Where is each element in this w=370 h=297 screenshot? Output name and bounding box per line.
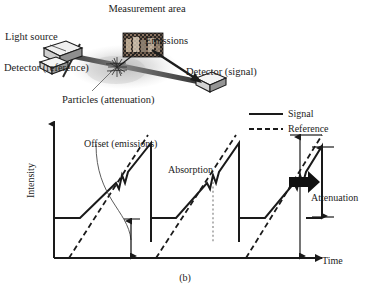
measurement-area-label: Measurement area	[104, 3, 190, 15]
legend-reference-label: Reference	[288, 123, 329, 134]
y-axis-label: Intensity	[25, 148, 36, 214]
figure-caption: (b)	[0, 272, 370, 283]
schematic-diagram	[0, 0, 370, 112]
particles-label: Particles (attenuation)	[62, 94, 154, 106]
chart-legend	[249, 114, 283, 129]
detector-reference-label: Detector (reference)	[4, 62, 74, 74]
x-axis-label: Time	[322, 255, 343, 266]
attenuation-annotation-label: Attenuation	[311, 192, 358, 203]
light-source-label: Light source	[5, 31, 58, 43]
offset-leader-line	[96, 144, 131, 240]
figure-panel-b: Measurement area Light source Emissions …	[0, 0, 370, 297]
absorption-annotation-label: Absorption	[168, 164, 213, 175]
signal-trace	[54, 143, 322, 242]
detector-signal-label: Detector (signal)	[186, 66, 248, 78]
legend-signal-label: Signal	[288, 108, 314, 119]
emissions-label: Emissions	[145, 35, 188, 47]
offset-annotation-label: Offset (emissions)	[84, 138, 157, 149]
